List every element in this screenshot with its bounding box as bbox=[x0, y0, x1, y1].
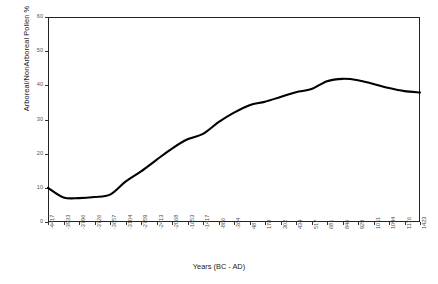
pollen-percentage-chart: Arboreal/NonArboreal Pollen % 0102030405… bbox=[0, 0, 438, 284]
x-tick-label: 1423 bbox=[422, 217, 428, 229]
x-tick-label: 48 bbox=[252, 223, 258, 229]
data-curve bbox=[48, 17, 420, 222]
x-axis-title: Years (BC - AD) bbox=[0, 262, 438, 271]
pollen-curve-path bbox=[48, 79, 420, 199]
